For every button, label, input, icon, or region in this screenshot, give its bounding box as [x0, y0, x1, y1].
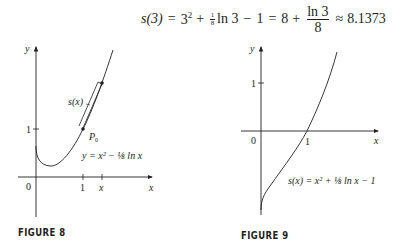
fig8-ytick-1: 1 [26, 124, 31, 135]
fig9-xtick-1: 1 [305, 136, 310, 147]
fig8-y-label: y [24, 43, 30, 54]
fig8-xtick-x: x [98, 182, 104, 193]
fig8-curve [36, 50, 113, 166]
fig8-origin-label: 0 [26, 181, 31, 192]
fig9-x-label: x [373, 135, 379, 146]
figures-canvas: y x 0 1 1 x P0 s(x) y = x² − ⅛ ln x y x … [0, 0, 399, 249]
fig8-arc-label: s(x) [68, 96, 84, 108]
figure-8-plot: y x 0 1 1 x P0 s(x) y = x² − ⅛ ln x [18, 43, 154, 217]
figure-9-caption: FIGURE 9 [241, 230, 288, 241]
fig8-xtick-1: 1 [80, 182, 85, 193]
fig9-origin-label: 0 [251, 135, 256, 146]
fig9-curve-label: s(x) = x² + ⅛ ln x − 1 [288, 175, 375, 187]
figure-8-caption: FIGURE 8 [18, 227, 65, 238]
fig8-x-label: x [148, 182, 154, 193]
fig9-y-label: y [249, 43, 255, 54]
figure-9-plot: y x 0 1 1 s(x) = x² + ⅛ ln x − 1 [241, 43, 379, 215]
fig8-point-label: P0 [88, 131, 98, 143]
fig9-ytick-1: 1 [251, 78, 256, 89]
fig8-curve-label: y = x² − ⅛ ln x [81, 150, 143, 161]
